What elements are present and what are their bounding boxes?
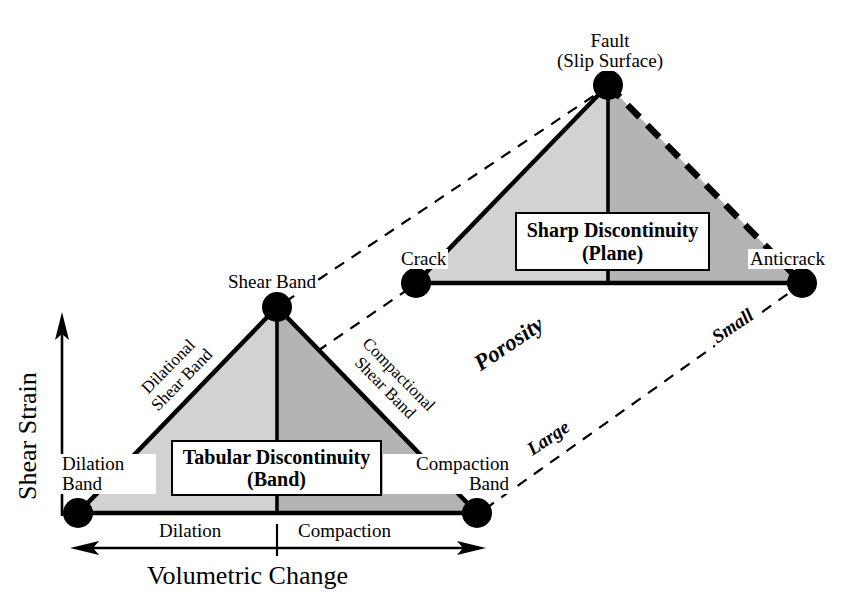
label-dilation-band: Dilation Band bbox=[60, 454, 156, 494]
label-anticrack: Anticrack bbox=[748, 249, 827, 269]
label-compaction-band-line2: Band bbox=[469, 473, 509, 494]
label-fault-line1: Fault bbox=[590, 30, 629, 51]
diagram-canvas: Shear Strain Volumetric Change Dilation … bbox=[0, 0, 857, 611]
y-axis-title: Shear Strain bbox=[14, 372, 41, 500]
dot-crack bbox=[401, 268, 431, 298]
label-compaction-band-line1: Compaction bbox=[416, 453, 509, 474]
dot-anticrack bbox=[787, 268, 817, 298]
diagram-vector-layer bbox=[0, 0, 857, 611]
x-axis-label-dilation: Dilation bbox=[159, 521, 221, 541]
callout-sharp-line2: (Plane) bbox=[582, 242, 643, 264]
dot-dilation-band bbox=[63, 498, 93, 528]
callout-tabular-line1: Tabular Discontinuity bbox=[183, 446, 370, 468]
label-dilation-band-line1: Dilation bbox=[62, 453, 124, 474]
dot-compaction-band bbox=[462, 498, 492, 528]
callout-tabular-discontinuity: Tabular Discontinuity (Band) bbox=[171, 440, 382, 496]
dot-fault bbox=[593, 70, 623, 100]
callout-sharp-discontinuity: Sharp Discontinuity (Plane) bbox=[515, 212, 710, 271]
dot-shear-band bbox=[262, 292, 292, 322]
label-crack: Crack bbox=[399, 249, 448, 269]
label-dilation-band-line2: Band bbox=[62, 473, 102, 494]
callout-tabular-line2: (Band) bbox=[247, 468, 306, 490]
label-fault-line2: (Slip Surface) bbox=[557, 50, 663, 71]
label-fault: Fault (Slip Surface) bbox=[528, 31, 692, 71]
x-axis-label-compaction: Compaction bbox=[298, 521, 391, 541]
x-axis-title: Volumetric Change bbox=[147, 562, 348, 589]
callout-sharp-line1: Sharp Discontinuity bbox=[527, 219, 699, 241]
label-compaction-band: Compaction Band bbox=[383, 454, 511, 494]
label-shear-band: Shear Band bbox=[226, 272, 318, 292]
